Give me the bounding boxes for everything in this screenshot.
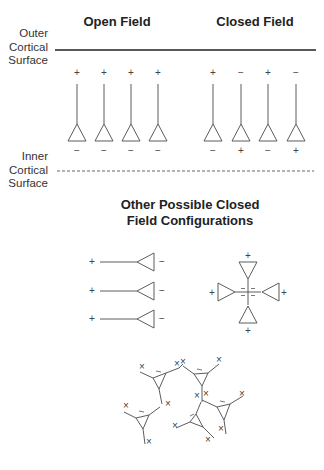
radial-configuration <box>218 262 279 323</box>
pyramidal-neuron <box>287 84 305 141</box>
pyramidal-neuron <box>149 84 167 141</box>
svg-text:+: + <box>245 325 251 336</box>
sign-top: + <box>155 67 161 78</box>
svg-text:+: + <box>89 256 95 267</box>
horizontal-neuron <box>100 253 154 271</box>
pyramidal-neuron <box>232 84 250 141</box>
svg-text:×: × <box>180 356 186 367</box>
open-field-signs: + + + + − − − − <box>74 67 161 156</box>
svg-text:+: + <box>89 285 95 296</box>
horizontal-neuron <box>100 282 154 300</box>
svg-text:−: − <box>159 256 165 267</box>
svg-text:+: + <box>281 287 287 298</box>
sign-top: + <box>101 67 107 78</box>
sign-top: + <box>265 67 271 78</box>
svg-text:−: − <box>159 313 165 324</box>
sign-bottom: − <box>155 145 161 156</box>
svg-text:×: × <box>172 420 178 431</box>
closed-field-signs: + − + − − + − + <box>210 67 299 156</box>
svg-text:×: × <box>216 354 222 365</box>
sign-top: + <box>210 67 216 78</box>
closed-field-neurons <box>204 84 305 141</box>
pyramidal-neuron <box>122 84 140 141</box>
svg-text:×: × <box>218 423 224 434</box>
sign-top: + <box>128 67 134 78</box>
horizontal-neurons <box>100 253 154 328</box>
sign-bottom: − <box>74 145 80 156</box>
sign-top: + <box>74 67 80 78</box>
sign-top: − <box>238 67 244 78</box>
svg-text:×: × <box>194 390 200 401</box>
svg-text:×: × <box>146 436 152 447</box>
network-markers: × × × × × × × × × × × × × <box>123 354 245 447</box>
svg-text:×: × <box>205 434 211 445</box>
svg-text:+: + <box>209 287 215 298</box>
sign-bottom: − <box>101 145 107 156</box>
sign-bottom: − <box>265 145 271 156</box>
svg-text:+: + <box>89 313 95 324</box>
sign-bottom: + <box>238 145 244 156</box>
network-soma-signs <box>139 369 225 416</box>
sign-bottom: + <box>293 145 299 156</box>
pyramidal-neuron <box>204 84 222 141</box>
horizontal-neuron <box>100 310 154 328</box>
diagram-canvas: + + + + − − − − + − + − − + − <box>0 0 324 470</box>
sign-bottom: − <box>128 145 134 156</box>
sign-bottom: − <box>210 145 216 156</box>
pyramidal-neuron <box>259 84 277 141</box>
svg-text:×: × <box>239 388 245 399</box>
open-field-neurons <box>68 84 167 141</box>
network-configuration <box>124 364 243 444</box>
sign-top: − <box>293 67 299 78</box>
svg-text:+: + <box>245 250 251 261</box>
svg-text:−: − <box>159 285 165 296</box>
pyramidal-neuron <box>68 84 86 141</box>
svg-text:×: × <box>203 388 209 399</box>
svg-text:×: × <box>165 398 171 409</box>
pyramidal-neuron <box>95 84 113 141</box>
svg-text:×: × <box>139 361 145 372</box>
svg-text:×: × <box>123 400 129 411</box>
